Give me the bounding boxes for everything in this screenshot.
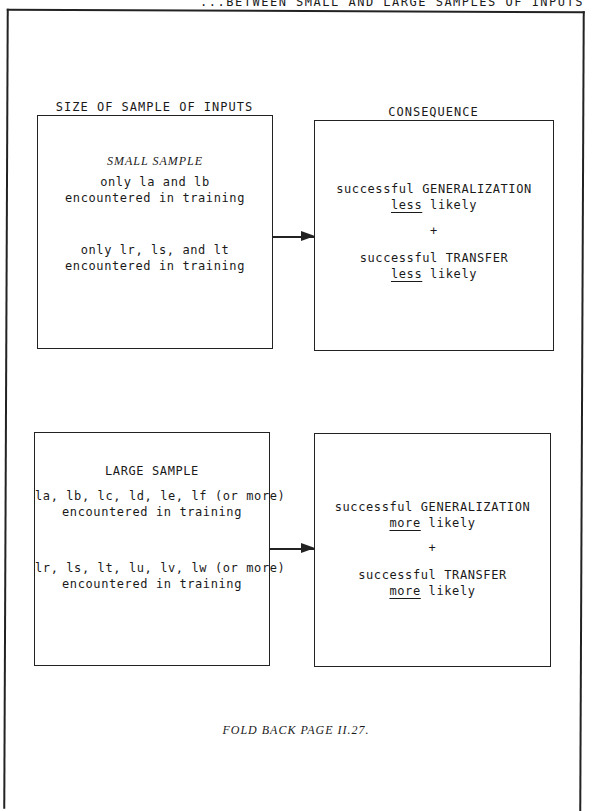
large-consequence-generalization: successful GENERALIZATION xyxy=(315,499,550,515)
large-consequence-box: successful GENERALIZATION more likely + … xyxy=(314,433,551,667)
small-sample-group2-line1: only lr, ls, and lt xyxy=(38,242,272,258)
small-consequence-transfer-likelihood: less likely xyxy=(315,266,553,282)
emphasis-more: more xyxy=(389,584,420,598)
small-sample-group1-line1: only la and lb xyxy=(38,174,272,190)
small-sample-group1-line2: encountered in training xyxy=(38,190,272,206)
arrow-large-to-consequence xyxy=(270,548,314,550)
large-sample-group1-line1: la, lb, lc, ld, le, lf (or more) xyxy=(35,488,269,504)
large-consequence-transfer: successful TRANSFER xyxy=(315,567,550,583)
small-sample-group2-line2: encountered in training xyxy=(38,258,272,274)
column-label-input-size: SIZE OF SAMPLE OF INPUTS xyxy=(37,100,272,114)
small-consequence-generalization: successful GENERALIZATION xyxy=(315,181,553,197)
large-sample-group1-line2: encountered in training xyxy=(35,504,269,520)
large-consequence-transfer-likelihood: more likely xyxy=(315,583,550,599)
large-sample-title: LARGE SAMPLE xyxy=(35,463,269,479)
large-sample-group2-line1: lr, ls, lt, lu, lv, lw (or more) xyxy=(35,560,269,576)
small-sample-title: SMALL SAMPLE xyxy=(38,153,272,169)
emphasis-less: less xyxy=(391,198,422,212)
small-consequence-box: successful GENERALIZATION less likely + … xyxy=(314,120,554,351)
large-sample-box: LARGE SAMPLE la, lb, lc, ld, le, lf (or … xyxy=(34,432,270,666)
plus-connector: + xyxy=(315,223,553,239)
small-consequence-generalization-likelihood: less likely xyxy=(315,197,553,213)
small-consequence-transfer: successful TRANSFER xyxy=(315,250,553,266)
large-consequence-generalization-likelihood: more likely xyxy=(315,515,550,531)
page-header-fragment: ...BETWEEN SMALL AND LARGE SAMPLES OF IN… xyxy=(200,0,584,9)
column-label-consequence: CONSEQUENCE xyxy=(314,105,553,119)
plus-connector: + xyxy=(315,540,550,556)
small-sample-box: SMALL SAMPLE only la and lb encountered … xyxy=(37,115,273,349)
fold-back-note: FOLD BACK PAGE II.27. xyxy=(0,723,592,738)
arrow-small-to-consequence xyxy=(273,236,314,238)
emphasis-less: less xyxy=(391,267,422,281)
large-sample-group2-line2: encountered in training xyxy=(35,576,269,592)
emphasis-more: more xyxy=(389,516,420,530)
